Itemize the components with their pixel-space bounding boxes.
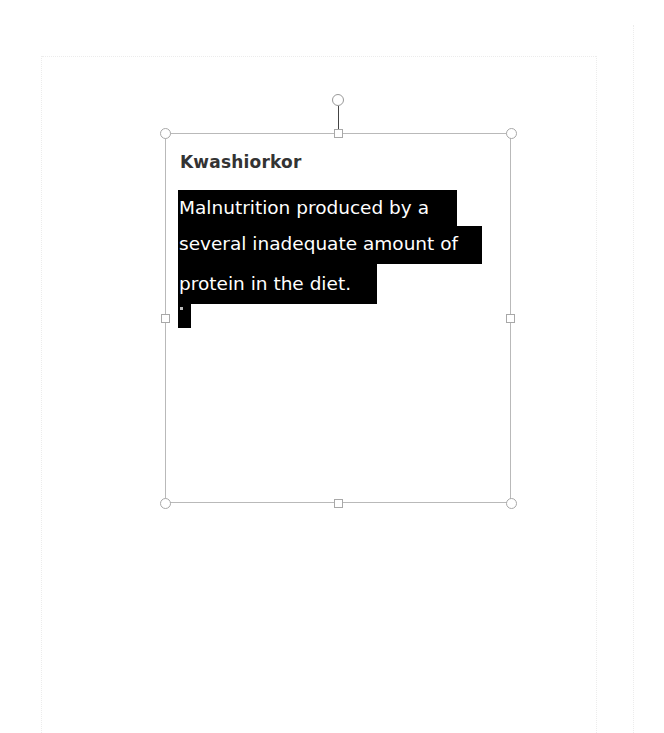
margin-guide-right (596, 56, 597, 733)
selected-text-line-3[interactable]: protein in the diet. (178, 264, 377, 304)
selected-text-line-2[interactable]: several inadequate amount of (178, 226, 482, 264)
margin-guide-left (41, 56, 42, 733)
selected-text-line-1[interactable]: Malnutrition produced by a (178, 190, 457, 226)
resize-handle-right[interactable] (506, 314, 515, 323)
textbox-title: Kwashiorkor (180, 152, 302, 172)
rotate-handle-icon[interactable] (332, 94, 344, 106)
resize-handle-bottom[interactable] (334, 499, 343, 508)
resize-handle-left[interactable] (161, 314, 170, 323)
page-edge-guide (633, 25, 634, 733)
resize-handle-top-left[interactable] (160, 128, 171, 139)
text-box[interactable] (165, 133, 511, 503)
resize-handle-top-right[interactable] (506, 128, 517, 139)
resize-handle-bottom-left[interactable] (160, 498, 171, 509)
margin-guide-top (42, 56, 596, 57)
resize-handle-bottom-right[interactable] (506, 498, 517, 509)
rotation-stem (338, 106, 339, 129)
paragraph-mark-icon (178, 304, 191, 328)
resize-handle-top[interactable] (334, 129, 343, 138)
